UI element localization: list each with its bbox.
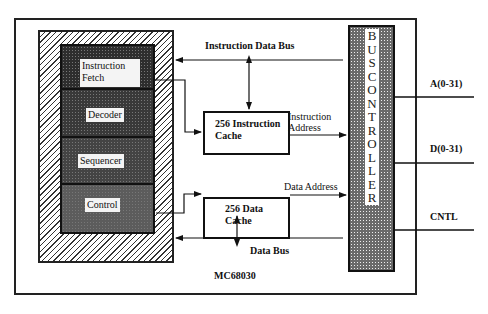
instruction-address-label-line2: Address <box>288 122 321 134</box>
instruction-data-bus-label: Instruction Data Bus <box>205 40 294 52</box>
data-bus-signal-label: D(0-31) <box>430 143 462 155</box>
control-signal-label: CNTL <box>430 211 458 223</box>
chip-name-label: MC68030 <box>214 270 256 282</box>
data-bus-label: Data Bus <box>250 245 289 257</box>
address-bus-signal-label: A(0-31) <box>430 78 462 90</box>
data-address-label: Data Address <box>284 181 338 193</box>
